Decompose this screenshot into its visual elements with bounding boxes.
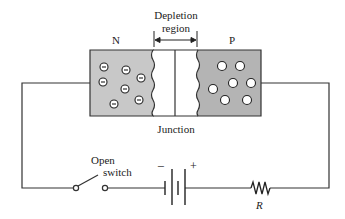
depletion-region (153, 50, 198, 116)
depletion-label-line2: region (148, 22, 204, 34)
n-region-label: N (112, 34, 120, 46)
p-region-label: P (229, 34, 235, 46)
electron-icon (110, 100, 118, 108)
left-wire (22, 83, 90, 188)
battery-minus-label: − (157, 161, 164, 173)
electron-icon (99, 78, 107, 86)
electron-icon (121, 85, 129, 93)
hole-icon (209, 85, 218, 94)
hole-icon (236, 62, 245, 71)
electron-icon (100, 63, 108, 71)
resistor-label: R (256, 199, 263, 211)
hole-icon (218, 62, 227, 71)
junction-label: Junction (150, 123, 202, 135)
switch-label-line2: switch (103, 166, 132, 178)
battery-plus-label: + (190, 160, 197, 172)
resistor-icon (251, 182, 270, 194)
electron-icon (137, 74, 145, 82)
right-wire (261, 83, 329, 188)
hole-icon (247, 79, 256, 88)
electron-icon (122, 66, 130, 74)
hole-icon (221, 96, 230, 105)
depletion-label-line1: Depletion (148, 9, 204, 21)
hole-icon (243, 96, 252, 105)
switch-label-line1: Open (91, 154, 115, 166)
battery-icon (165, 169, 185, 205)
hole-icon (229, 79, 238, 88)
electron-icon (135, 96, 143, 104)
